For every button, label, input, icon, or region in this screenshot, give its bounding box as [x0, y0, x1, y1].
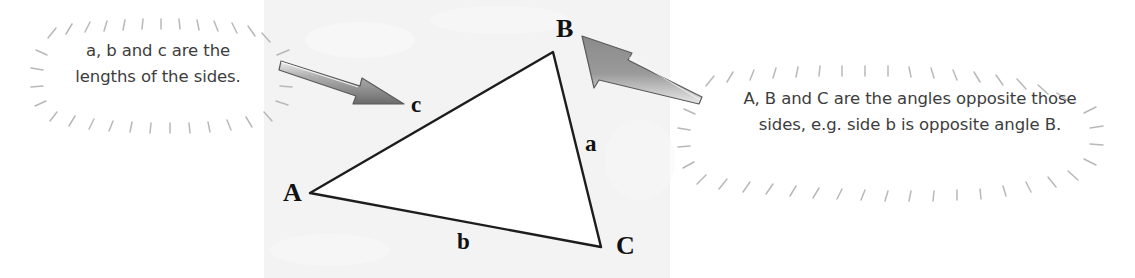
- callout-left-line1: a, b and c are the: [42, 38, 274, 64]
- callout-left: a, b and c are the lengths of the sides.: [42, 38, 274, 90]
- callout-right: A, B and C are the angles opposite those…: [700, 86, 1120, 138]
- vertex-label-a: A: [283, 178, 302, 208]
- vertex-label-c: C: [616, 231, 635, 261]
- vertex-label-b: B: [556, 14, 573, 44]
- callout-left-line2: lengths of the sides.: [42, 64, 274, 90]
- side-label-c: c: [411, 92, 421, 118]
- callout-right-line1: A, B and C are the angles opposite those: [700, 86, 1120, 112]
- figure-scene: a, b and c are the lengths of the sides.…: [0, 0, 1135, 278]
- side-label-b: b: [457, 229, 470, 255]
- side-label-a: a: [585, 131, 597, 157]
- callout-right-line2: sides, e.g. side b is opposite angle B.: [700, 112, 1120, 138]
